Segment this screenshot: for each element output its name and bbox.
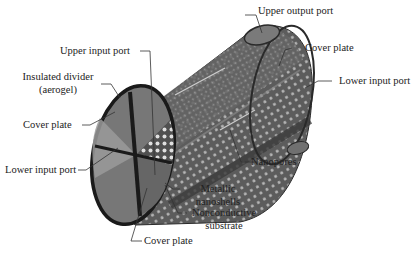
diagram-canvas: Upper output port Cover plate Lower inpu… — [0, 0, 418, 255]
label-nonconductive-substrate-line2: substrate — [183, 220, 265, 233]
label-insulated-divider-line1: Insulated divider — [20, 71, 96, 84]
label-metallic-nanoshells-line1: Metallic — [188, 183, 248, 196]
label-lower-input-port-right: Lower input port — [339, 75, 410, 88]
label-upper-input-port: Upper input port — [60, 45, 130, 58]
label-nanopores: Nanopores — [251, 156, 297, 169]
label-insulated-divider: Insulated divider (aerogel) — [20, 71, 96, 96]
label-nonconductive-substrate: Nonconductive substrate — [183, 207, 265, 232]
label-insulated-divider-line2: (aerogel) — [20, 84, 96, 97]
label-cover-plate-right: Cover plate — [305, 42, 354, 55]
label-cover-plate-left: Cover plate — [23, 119, 72, 132]
label-cover-plate-bottom: Cover plate — [144, 235, 193, 248]
label-upper-output-port: Upper output port — [258, 5, 333, 18]
label-nonconductive-substrate-line1: Nonconductive — [183, 207, 265, 220]
label-lower-input-port-left: Lower input port — [5, 164, 76, 177]
label-metallic-nanoshells: Metallic nanoshells — [188, 183, 248, 208]
